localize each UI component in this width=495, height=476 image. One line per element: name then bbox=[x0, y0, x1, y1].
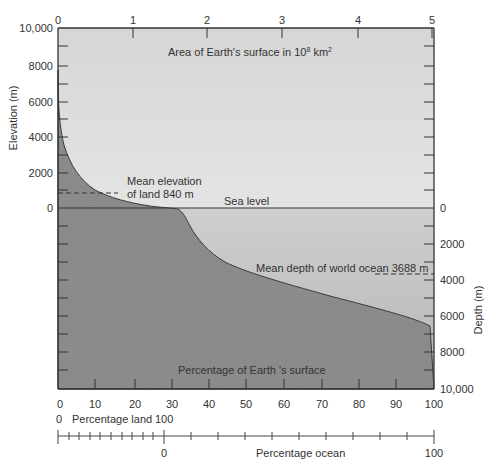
svg-text:90: 90 bbox=[390, 398, 402, 410]
pct-ocean-label: Percentage ocean bbox=[256, 447, 345, 459]
top-axis-tick-labels: 0 1 2 3 4 5 bbox=[55, 14, 435, 26]
svg-text:60: 60 bbox=[278, 398, 290, 410]
svg-text:100: 100 bbox=[425, 398, 443, 410]
svg-text:20: 20 bbox=[129, 398, 141, 410]
svg-text:10,000: 10,000 bbox=[440, 383, 474, 395]
svg-text:50: 50 bbox=[240, 398, 252, 410]
svg-text:0: 0 bbox=[57, 398, 63, 410]
pct-land-start: 0 bbox=[56, 413, 62, 425]
svg-text:30: 30 bbox=[166, 398, 178, 410]
pct-land-label: Percentage land bbox=[72, 413, 152, 425]
svg-text:70: 70 bbox=[316, 398, 328, 410]
bottom-axis-tick-labels: 0 10 20 30 40 50 60 70 80 90 100 bbox=[57, 398, 443, 410]
hypsographic-chart: 0 1 2 3 4 5 10,000 8000 6000 4000 2000 0… bbox=[0, 0, 495, 476]
svg-text:8000: 8000 bbox=[29, 60, 53, 72]
svg-text:2: 2 bbox=[204, 14, 210, 26]
mean-land-label-line2: of land 840 m bbox=[127, 188, 194, 200]
pct-ocean-start: 0 bbox=[161, 447, 167, 459]
sea-level-label: Sea level bbox=[224, 195, 269, 207]
right-axis-tick-labels: 0 2000 4000 6000 8000 10,000 bbox=[440, 202, 474, 395]
mean-land-label-line1: Mean elevation bbox=[127, 175, 202, 187]
mean-ocean-label: Mean depth of world ocean 3688 m bbox=[256, 262, 428, 274]
pct-land-end: 100 bbox=[155, 413, 173, 425]
svg-text:0: 0 bbox=[47, 202, 53, 214]
svg-text:4000: 4000 bbox=[440, 274, 464, 286]
svg-text:10: 10 bbox=[89, 398, 101, 410]
percentage-ocean-ticks bbox=[191, 430, 434, 444]
svg-text:6000: 6000 bbox=[29, 96, 53, 108]
svg-text:1: 1 bbox=[130, 14, 136, 26]
svg-text:40: 40 bbox=[203, 398, 215, 410]
depth-axis-label: Depth (m) bbox=[472, 286, 484, 335]
bottom-axis-title: Percentage of Earth 's surface bbox=[178, 364, 326, 376]
svg-text:0: 0 bbox=[55, 14, 61, 26]
svg-text:8000: 8000 bbox=[440, 346, 464, 358]
svg-text:3: 3 bbox=[279, 14, 285, 26]
svg-text:0: 0 bbox=[440, 202, 446, 214]
svg-text:2000: 2000 bbox=[29, 167, 53, 179]
svg-text:2000: 2000 bbox=[440, 238, 464, 250]
percentage-land-ticks bbox=[58, 430, 164, 444]
left-axis-tick-labels: 10,000 8000 6000 4000 2000 0 bbox=[19, 22, 53, 214]
pct-ocean-end: 100 bbox=[425, 447, 443, 459]
svg-text:80: 80 bbox=[353, 398, 365, 410]
svg-text:4000: 4000 bbox=[29, 131, 53, 143]
svg-text:5: 5 bbox=[429, 14, 435, 26]
svg-text:10,000: 10,000 bbox=[19, 22, 53, 34]
svg-text:4: 4 bbox=[355, 14, 361, 26]
elevation-axis-label: Elevation (m) bbox=[7, 86, 19, 151]
svg-text:6000: 6000 bbox=[440, 310, 464, 322]
